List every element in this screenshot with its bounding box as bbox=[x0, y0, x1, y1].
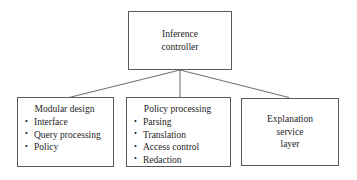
node-policy-processing-heading: Policy processing bbox=[127, 103, 230, 115]
node-inference-controller-line-1: Inference bbox=[162, 28, 198, 41]
node-policy-processing-bullet-list: Parsing Translation Access control Redac… bbox=[127, 116, 230, 166]
list-item: Access control bbox=[134, 141, 230, 154]
node-modular-design-bullet-list: Interface Query processing Policy bbox=[18, 116, 113, 154]
list-item: Parsing bbox=[134, 116, 230, 129]
node-explanation-service-layer-line-1: Explanation bbox=[267, 113, 313, 126]
diagram-canvas: Inference controller Modular design Inte… bbox=[0, 0, 357, 180]
node-policy-processing[interactable]: Policy processing Parsing Translation Ac… bbox=[126, 97, 231, 167]
node-inference-controller[interactable]: Inference controller bbox=[128, 11, 232, 70]
list-item: Interface bbox=[25, 116, 113, 129]
node-modular-design-heading: Modular design bbox=[18, 103, 113, 115]
list-item: Translation bbox=[134, 129, 230, 142]
list-item: Redaction bbox=[134, 154, 230, 167]
node-modular-design[interactable]: Modular design Interface Query processin… bbox=[17, 97, 114, 167]
node-inference-controller-line-2: controller bbox=[162, 41, 199, 54]
connector-root-to-modular-design bbox=[69, 70, 180, 98]
list-item: Policy bbox=[25, 141, 113, 154]
connector-root-to-explanation-service-layer bbox=[180, 70, 289, 98]
node-explanation-service-layer-line-2: service bbox=[277, 126, 304, 139]
node-explanation-service-layer[interactable]: Explanation service layer bbox=[241, 98, 339, 166]
node-explanation-service-layer-line-3: layer bbox=[281, 138, 300, 151]
list-item: Query processing bbox=[25, 129, 113, 142]
